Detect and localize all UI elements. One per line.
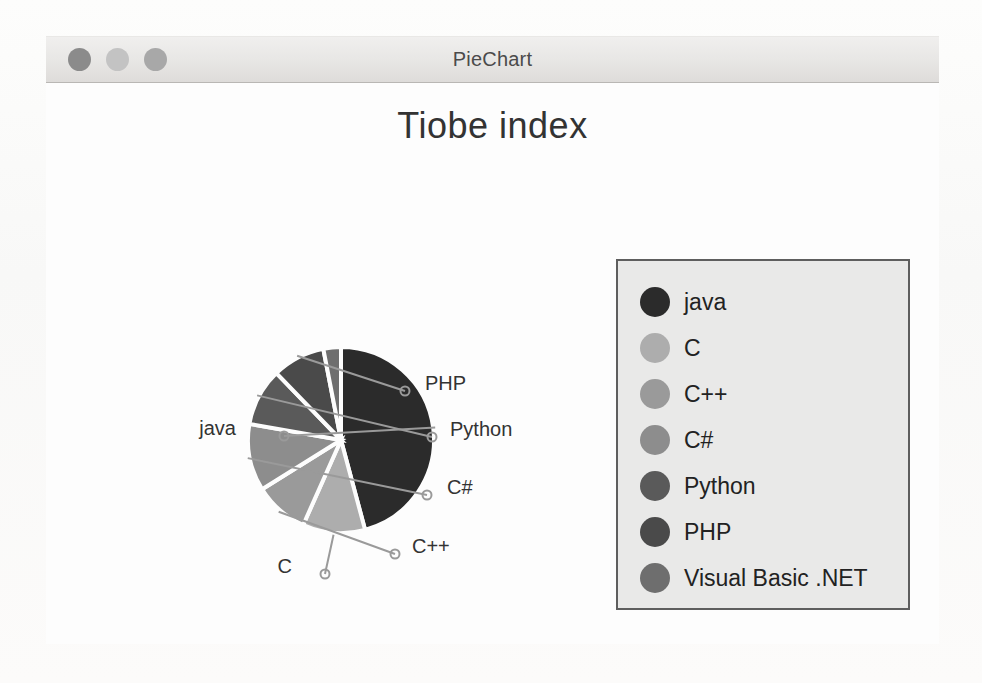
application-window: PieChart Tiobe index javaCC++C#PythonPHP… — [46, 36, 939, 644]
legend-item-label: C — [684, 335, 701, 362]
legend-color-swatch — [640, 563, 670, 593]
legend-item-label: C++ — [684, 381, 727, 408]
legend-item[interactable]: java — [640, 279, 908, 325]
pie-chart: javaCC++C#PythonPHP — [46, 83, 646, 646]
pie-slice-label: PHP — [425, 372, 466, 395]
legend-item[interactable]: Visual Basic .NET — [640, 555, 908, 601]
chart-legend: javaCC++C#PythonPHPVisual Basic .NET — [616, 259, 910, 610]
window-title: PieChart — [46, 48, 939, 71]
pie-slice-label: java — [199, 417, 236, 440]
legend-item[interactable]: C++ — [640, 371, 908, 417]
label-leader-line — [325, 535, 334, 574]
legend-item[interactable]: PHP — [640, 509, 908, 555]
legend-item-label: PHP — [684, 519, 731, 546]
legend-items: javaCC++C#PythonPHPVisual Basic .NET — [640, 279, 908, 601]
legend-color-swatch — [640, 379, 670, 409]
pie-slice-label: C++ — [412, 535, 450, 558]
legend-item-label: Visual Basic .NET — [684, 565, 868, 592]
legend-item[interactable]: C# — [640, 417, 908, 463]
chart-canvas: Tiobe index javaCC++C#PythonPHP javaCC++… — [46, 83, 939, 646]
legend-color-swatch — [640, 471, 670, 501]
legend-item-label: java — [684, 289, 726, 316]
legend-item-label: C# — [684, 427, 713, 454]
legend-item[interactable]: Python — [640, 463, 908, 509]
pie-slice-label: Python — [450, 418, 512, 441]
pie-slice-label: C — [278, 555, 292, 578]
legend-color-swatch — [640, 287, 670, 317]
legend-color-swatch — [640, 333, 670, 363]
window-title-bar[interactable]: PieChart — [46, 36, 939, 83]
legend-color-swatch — [640, 517, 670, 547]
legend-color-swatch — [640, 425, 670, 455]
pie-slice-label: C# — [447, 476, 473, 499]
legend-item[interactable]: C — [640, 325, 908, 371]
pie-svg — [46, 83, 646, 646]
legend-item-label: Python — [684, 473, 756, 500]
